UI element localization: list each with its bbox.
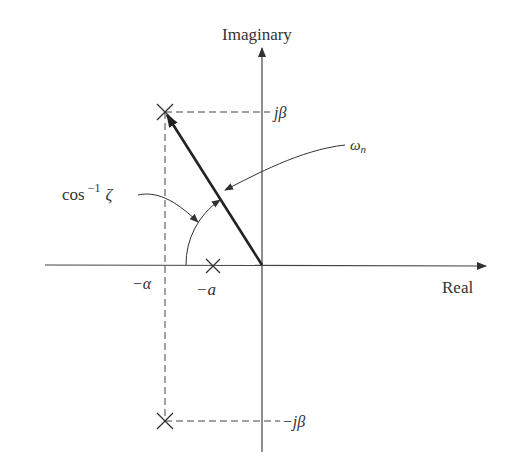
zeta-symbol: ζ <box>105 185 113 204</box>
omega-n-leader <box>225 145 345 190</box>
j-beta-bottom-label: −jβ <box>282 413 305 431</box>
real-axis-label: Real <box>442 278 473 297</box>
angle-arc <box>186 200 220 265</box>
cos-superscript: −1 <box>88 181 101 195</box>
minus-a-label: −a <box>196 280 216 299</box>
cos-text: cos <box>62 185 85 204</box>
omega-symbol: ω <box>350 137 361 153</box>
minus-alpha-label: −α <box>132 275 152 292</box>
imaginary-axis-label: Imaginary <box>222 25 292 44</box>
omega-n-label: ωn <box>350 137 367 155</box>
omega-n-vector <box>167 115 262 265</box>
cos-zeta-leader <box>138 194 198 222</box>
real-axis <box>45 265 486 266</box>
cos-inverse-zeta-label: cos−1ζ <box>62 181 113 204</box>
j-beta-top-label: jβ <box>272 104 286 122</box>
s-plane-diagram: Imaginary Real jβ −jβ −α −a ωn cos−1ζ <box>0 0 522 473</box>
omega-subscript: n <box>361 143 367 155</box>
zero-marker-icon <box>206 259 220 273</box>
